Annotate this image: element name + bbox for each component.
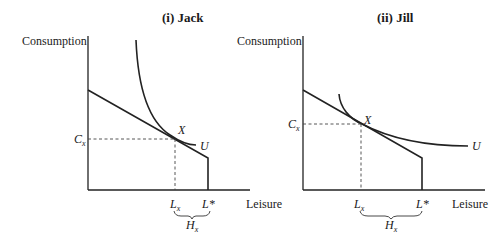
cx-label: Cx xyxy=(288,117,300,133)
hx-label: Hx xyxy=(384,218,398,234)
panel-title: (ii) Jill xyxy=(377,10,414,25)
y-axis-label: Consumption xyxy=(237,34,302,48)
curve-u-label: U xyxy=(472,139,482,153)
panel-title: (i) Jack xyxy=(162,10,204,25)
lstar-label: L* xyxy=(201,197,215,211)
x-axis-label: Leisure xyxy=(246,197,282,211)
indifference-curve xyxy=(339,94,468,146)
labor-leisure-diagram: (i) Jack Consumption X U Cx Lx L* Leisur… xyxy=(0,0,503,237)
cx-label: Cx xyxy=(74,132,86,148)
y-axis-label: Consumption xyxy=(22,34,87,48)
lx-label: Lx xyxy=(169,197,181,213)
point-x-label: X xyxy=(363,113,372,127)
lx-label: Lx xyxy=(353,197,365,213)
hx-label: Hx xyxy=(185,218,199,234)
point-x-label: X xyxy=(177,123,186,137)
lstar-label: L* xyxy=(415,197,429,211)
indifference-curve xyxy=(136,40,196,145)
curve-u-label: U xyxy=(200,139,210,153)
x-axis-label: Leisure xyxy=(452,197,488,211)
